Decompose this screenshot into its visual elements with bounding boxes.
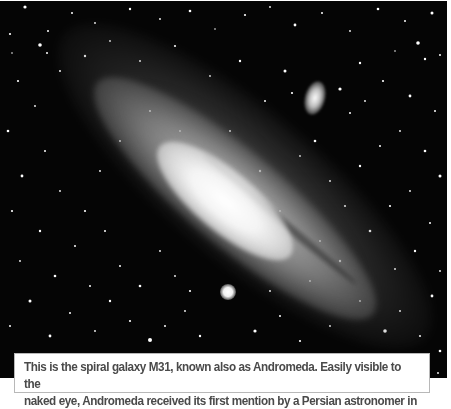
caption-line-2: naked eye, Andromeda received its first …: [24, 393, 417, 408]
companion-galaxy-m32: [220, 284, 236, 300]
caption-box: This is the spiral galaxy M31, known als…: [14, 353, 430, 393]
caption-line-1: This is the spiral galaxy M31, known als…: [24, 359, 401, 391]
galaxy-photo: [0, 1, 447, 378]
caption-text: This is the spiral galaxy M31, known als…: [24, 358, 420, 409]
